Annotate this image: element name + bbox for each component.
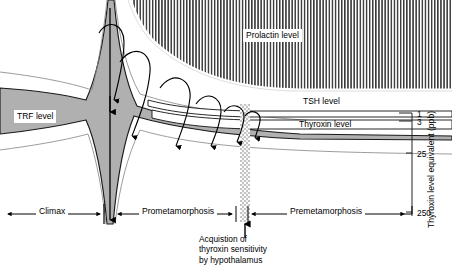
prolactin-band (128, 0, 452, 95)
acquisition-annotation-line-3: by hypothalamus (199, 255, 319, 265)
acquisition-annotation-line-2: thyroxin sensitivity (199, 244, 319, 254)
tsh-level-label: TSH level (300, 95, 343, 108)
axis-tick-label-25: 25 (417, 150, 426, 159)
acquisition-annotation: Acquistion of thyroxin sensitivity by hy… (199, 234, 319, 265)
stage-label-premetamorphosis: Premetamorphosis (287, 206, 365, 216)
prolactin-level-label: Prolactin level (243, 29, 302, 42)
acquisition-marker-band (240, 104, 250, 222)
stage-label-climax: Climax (36, 206, 68, 216)
value-axis-title: Thyroxin level equivalent (ppb) (426, 98, 436, 228)
axis-tick-label-3: 3 (417, 118, 422, 127)
acquisition-annotation-line-1: Acquistion of (199, 234, 319, 244)
thyroxin-level-label: Thyroxin level (296, 118, 354, 131)
trf-level-label: TRF level (14, 110, 56, 123)
stage-label-prometamorphosis: Prometamorphosis (139, 206, 217, 216)
metamorphosis-hormone-diagram: TRF level Prolactin level TSH level Thyr… (0, 0, 452, 278)
